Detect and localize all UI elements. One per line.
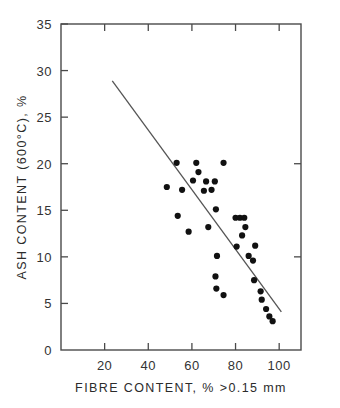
regression-line xyxy=(112,81,281,312)
data-point xyxy=(195,169,201,175)
data-point xyxy=(212,273,218,279)
data-point xyxy=(252,243,258,249)
x-tick-label: 40 xyxy=(141,358,156,373)
data-point xyxy=(246,253,252,259)
data-point xyxy=(213,206,219,212)
x-axis-tickmarks-top xyxy=(105,24,280,31)
x-tick-label: 20 xyxy=(97,358,112,373)
data-point xyxy=(174,160,180,166)
y-tick-label: 5 xyxy=(44,296,52,311)
y-axis-tickmarks xyxy=(61,24,68,303)
data-point xyxy=(179,187,185,193)
x-tick-label: 80 xyxy=(228,358,243,373)
y-axis-tickmarks-right xyxy=(294,164,301,257)
data-point xyxy=(234,244,240,250)
y-axis-title: ASH CONTENT (600°C), % xyxy=(15,95,29,280)
data-point xyxy=(263,306,269,312)
data-point xyxy=(193,160,199,166)
data-point xyxy=(214,253,220,259)
y-tick-label: 15 xyxy=(37,203,52,218)
x-axis-title: FIBRE CONTENT, % >0.15 mm xyxy=(75,381,287,395)
data-point xyxy=(220,292,226,298)
data-point xyxy=(190,177,196,183)
y-tick-label: 35 xyxy=(37,17,52,32)
y-tick-label: 25 xyxy=(37,110,52,125)
data-point xyxy=(220,160,226,166)
data-point xyxy=(270,318,276,324)
x-tick-label: 100 xyxy=(268,358,291,373)
data-point xyxy=(239,232,245,238)
x-tick-label: 60 xyxy=(184,358,199,373)
data-point xyxy=(212,178,218,184)
data-points xyxy=(164,160,276,325)
data-point xyxy=(241,215,247,221)
data-point xyxy=(164,184,170,190)
data-point xyxy=(258,288,264,294)
x-axis-tick-labels: 20406080100 xyxy=(97,358,291,373)
y-tick-label: 20 xyxy=(37,157,52,172)
plot-canvas: 20406080100 05101520253035 FIBRE CONTENT… xyxy=(0,0,340,408)
y-tick-label: 0 xyxy=(44,343,52,358)
data-point xyxy=(250,257,256,263)
data-point xyxy=(251,277,257,283)
data-point xyxy=(175,213,181,219)
y-tick-label: 10 xyxy=(37,250,52,265)
data-point xyxy=(259,297,265,303)
data-point xyxy=(213,285,219,291)
data-point xyxy=(203,178,209,184)
data-point xyxy=(208,187,214,193)
data-point xyxy=(242,224,248,230)
y-axis-tick-labels: 05101520253035 xyxy=(37,17,52,358)
data-point xyxy=(201,188,207,194)
data-point xyxy=(205,224,211,230)
scatter-plot-figure: 20406080100 05101520253035 FIBRE CONTENT… xyxy=(0,0,340,408)
regression-line-segment xyxy=(112,81,281,312)
data-point xyxy=(186,229,192,235)
x-axis-tickmarks xyxy=(105,343,280,350)
y-tick-label: 30 xyxy=(37,64,52,79)
